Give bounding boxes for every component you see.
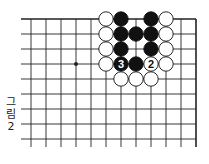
white-stone — [129, 72, 143, 86]
star-points — [74, 62, 78, 66]
white-stone — [159, 12, 173, 26]
figure-caption: 그 림 2 — [4, 97, 18, 133]
black-stone — [144, 12, 158, 26]
black-stone — [114, 12, 128, 26]
white-stone — [99, 27, 113, 41]
move-number-label: 3 — [118, 58, 124, 70]
black-stone — [129, 57, 143, 71]
white-stone — [159, 57, 173, 71]
white-stone — [159, 27, 173, 41]
white-stone — [99, 12, 113, 26]
black-stone — [114, 42, 128, 56]
white-stone — [99, 57, 113, 71]
go-board-diagram: 32 — [0, 0, 209, 164]
white-stone — [159, 42, 173, 56]
white-stone — [114, 72, 128, 86]
white-stone — [144, 72, 158, 86]
black-stone — [144, 42, 158, 56]
black-stone — [114, 27, 128, 41]
move-number-label: 2 — [148, 58, 154, 70]
caption-char-3: 2 — [4, 121, 18, 133]
black-stone — [144, 27, 158, 41]
star-point — [74, 62, 78, 66]
white-stone — [99, 42, 113, 56]
black-stone — [129, 27, 143, 41]
